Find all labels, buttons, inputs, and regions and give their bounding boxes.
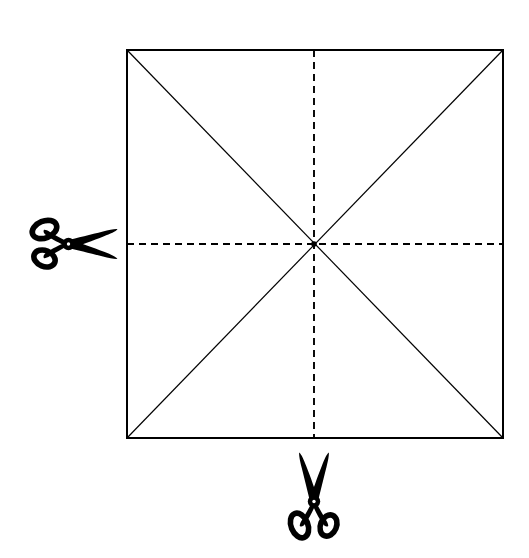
- square-fold-diagram: [0, 0, 529, 558]
- diagram-canvas: Square with diagonals and dashed medians…: [0, 0, 529, 558]
- center-point: [311, 241, 317, 247]
